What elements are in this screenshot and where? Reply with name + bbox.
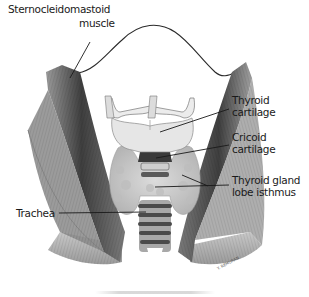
label-trachea: Trachea [16,207,55,219]
label-thyroid-cartilage-line2: cartilage [232,106,275,118]
label-cricoid-cartilage-line2: cartilage [232,143,275,155]
label-cricoid-cartilage-line1: Cricoid [232,131,266,143]
label-thyroid-gland-line2: lobe isthmus [232,186,296,198]
label-sternocleidomastoid-line1: Sternocleidomastoid [8,3,110,15]
label-thyroid-gland-line1: Thyroid gland [232,174,300,186]
label-sternocleidomastoid-line2: muscle [79,17,115,29]
illegible-caption [95,291,215,294]
label-thyroid-cartilage-line1: Thyroid [232,94,269,106]
jaw-outline [78,25,236,76]
thyroid-horn-right [148,96,157,118]
